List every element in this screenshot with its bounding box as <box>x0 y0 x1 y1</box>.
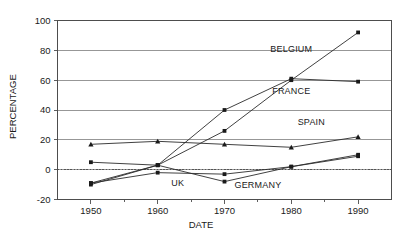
series-markers-group <box>88 31 360 187</box>
data-point-marker <box>89 181 93 185</box>
line-chart: -20020406080100 19501960197019801990 BEL… <box>0 0 408 233</box>
x-axis-tick-labels: 19501960197019801990 <box>80 205 368 216</box>
x-tick-label: 1990 <box>348 205 369 216</box>
series-line-belgium <box>91 32 358 183</box>
x-tick-label: 1970 <box>214 205 235 216</box>
x-tick-label: 1980 <box>281 205 302 216</box>
data-point-marker <box>223 172 227 176</box>
y-tick-label: -20 <box>37 194 51 205</box>
x-tick-label: 1950 <box>80 205 101 216</box>
gridlines-group <box>58 21 392 170</box>
x-axis-ticks <box>91 200 358 204</box>
data-point-marker <box>223 180 227 184</box>
series-label-uk: UK <box>171 178 184 188</box>
data-point-marker <box>289 165 293 169</box>
data-point-marker <box>156 163 160 167</box>
series-label-spain: SPAIN <box>298 117 325 127</box>
chart-container: -20020406080100 19501960197019801990 BEL… <box>0 0 408 233</box>
data-point-marker <box>356 80 360 84</box>
x-axis-title: DATE <box>189 219 214 230</box>
series-line-uk <box>91 155 358 183</box>
y-tick-label: 80 <box>40 45 51 56</box>
series-line-germany <box>91 156 358 181</box>
series-annotation-labels: BELGIUMFRANCESPAINUKGERMANY <box>171 44 325 190</box>
series-label-belgium: BELGIUM <box>270 44 312 54</box>
data-point-marker <box>89 160 93 164</box>
y-tick-label: 0 <box>45 164 50 175</box>
data-point-marker <box>223 129 227 133</box>
data-point-marker <box>356 154 360 158</box>
y-tick-label: 60 <box>40 75 51 86</box>
data-point-marker <box>223 108 227 112</box>
y-axis-tick-labels: -20020406080100 <box>35 15 51 205</box>
y-axis-title: PERCENTAGE <box>7 74 18 139</box>
x-tick-label: 1960 <box>147 205 168 216</box>
y-tick-label: 100 <box>35 15 51 26</box>
data-point-marker <box>356 134 361 139</box>
y-tick-label: 20 <box>40 134 51 145</box>
series-label-germany: GERMANY <box>234 180 281 190</box>
y-axis-ticks <box>54 21 58 200</box>
data-point-marker <box>356 31 360 35</box>
y-tick-label: 40 <box>40 104 51 115</box>
data-point-marker <box>289 77 293 81</box>
data-point-marker <box>156 171 160 175</box>
series-label-france: FRANCE <box>272 86 310 96</box>
